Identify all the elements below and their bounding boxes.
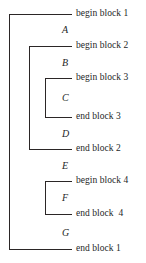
- statement-label-d: D: [62, 129, 69, 139]
- row-begin-block-2: begin block 2: [76, 41, 128, 51]
- row-end-block-2: end block 2: [76, 144, 121, 154]
- row-end-block-1: end block 1: [76, 244, 121, 254]
- statement-label-b: B: [62, 58, 68, 68]
- row-end-block-4: end block 4: [76, 209, 123, 219]
- bracket-block-1-bottom-arm: [9, 249, 72, 250]
- statement-label-e: E: [62, 161, 68, 171]
- row-begin-block-3: begin block 3: [76, 73, 128, 83]
- statement-label-c: C: [62, 93, 69, 103]
- bracket-block-3-vertical: [45, 78, 46, 117]
- bracket-block-4-vertical: [45, 181, 46, 214]
- bracket-block-4-top-arm: [45, 181, 72, 182]
- statement-label-a: A: [62, 25, 68, 35]
- bracket-block-4-bottom-arm: [45, 214, 72, 215]
- bracket-block-1-vertical: [9, 14, 10, 249]
- bracket-block-2-vertical: [29, 46, 30, 149]
- row-begin-block-1: begin block 1: [76, 9, 128, 19]
- row-end-block-3: end block 3: [76, 112, 121, 122]
- statement-label-g: G: [62, 228, 69, 238]
- bracket-block-2-top-arm: [29, 46, 72, 47]
- bracket-block-3-bottom-arm: [45, 117, 72, 118]
- bracket-block-3-top-arm: [45, 78, 72, 79]
- row-begin-block-4: begin block 4: [76, 176, 128, 186]
- block-structure-diagram: begin block 1 begin block 2 begin block …: [0, 0, 146, 263]
- statement-label-f: F: [62, 193, 68, 203]
- bracket-block-2-bottom-arm: [29, 149, 72, 150]
- bracket-block-1-top-arm: [9, 14, 72, 15]
